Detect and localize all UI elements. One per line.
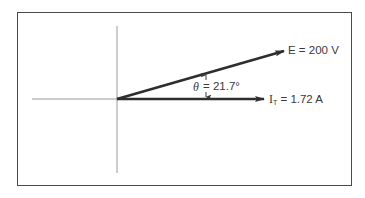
voltage-vector-e xyxy=(117,51,284,99)
current-label: IT = 1.72 A xyxy=(269,93,323,106)
angle-value-label: = 21.7° xyxy=(203,80,240,92)
current-value-text: = 1.72 A xyxy=(277,93,323,105)
theta-symbol: θ xyxy=(193,80,199,95)
voltage-label: E = 200 V xyxy=(288,45,339,57)
voltage-label-text: E = 200 V xyxy=(288,44,339,56)
